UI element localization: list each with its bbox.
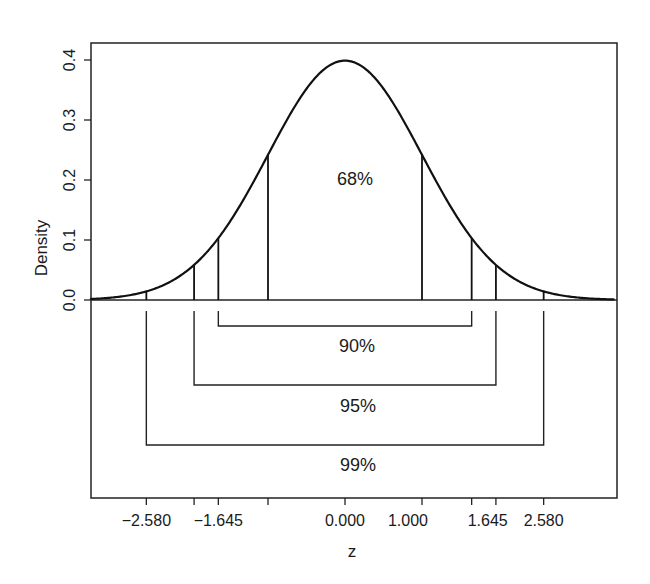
- x-tick-label: 1.000: [388, 512, 428, 529]
- y-tick-label: 0.0: [61, 289, 78, 311]
- x-tick-label: 1.645: [468, 512, 508, 529]
- interval-brackets: [146, 311, 543, 445]
- y-tick-label: 0.3: [61, 109, 78, 131]
- y-tick-label: 0.2: [61, 169, 78, 191]
- x-tick-label: 2.580: [524, 512, 564, 529]
- x-tick-label: 0.000: [325, 512, 365, 529]
- y-axis: 0.00.10.20.30.4: [61, 49, 91, 311]
- plot-frame: [91, 43, 617, 498]
- interval-bracket: [146, 311, 543, 445]
- x-axis: −2.580−1.6450.0001.0001.6452.580: [122, 498, 564, 529]
- interval-bracket: [218, 311, 471, 326]
- y-tick-label: 0.1: [61, 229, 78, 251]
- annotation-99: 99%: [340, 455, 376, 475]
- normal-distribution-chart: 0.00.10.20.30.4 −2.580−1.6450.0001.0001.…: [0, 0, 650, 584]
- x-axis-label: z: [348, 542, 357, 561]
- x-tick-label: −1.645: [194, 512, 243, 529]
- annotation-95: 95%: [340, 396, 376, 416]
- annotation-90: 90%: [339, 336, 375, 356]
- x-tick-label: −2.580: [122, 512, 171, 529]
- y-axis-label: Density: [32, 219, 51, 276]
- y-tick-label: 0.4: [61, 49, 78, 71]
- annotation-68: 68%: [337, 169, 373, 189]
